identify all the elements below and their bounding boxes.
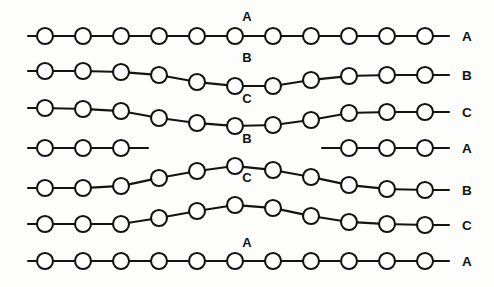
chain-node <box>379 216 395 232</box>
chain-row-3 <box>28 100 449 134</box>
chain-row-7 <box>28 253 449 269</box>
chain-node <box>417 28 433 44</box>
chain-row-6 <box>28 197 449 233</box>
chain-node <box>189 28 205 44</box>
chain-link <box>281 81 303 85</box>
chain-link <box>205 206 227 210</box>
chain-node <box>113 64 129 80</box>
chain-node <box>75 216 91 232</box>
chain-node <box>75 101 91 117</box>
chain-center-label: B <box>242 50 251 65</box>
chain-node <box>151 67 167 83</box>
chain-node <box>151 110 167 126</box>
chain-node <box>227 78 243 94</box>
chain-end-label: C <box>462 105 472 120</box>
chain-node <box>379 181 395 197</box>
chain-node <box>303 112 319 128</box>
chain-row-4 <box>28 140 449 156</box>
chain-node <box>303 253 319 269</box>
chain-link <box>357 112 379 113</box>
chain-node <box>227 118 243 134</box>
chain-node <box>265 200 281 216</box>
chain-node <box>37 180 53 196</box>
chain-diagram-canvas: AABBCCABBCCAA <box>0 0 494 287</box>
chain-node <box>341 105 357 121</box>
chain-end-label: A <box>462 141 472 156</box>
chain-link <box>357 222 379 223</box>
chain-link <box>53 108 75 109</box>
chain-node <box>379 253 395 269</box>
chain-node <box>265 162 281 178</box>
chain-link <box>205 83 227 85</box>
chain-link <box>357 186 379 188</box>
chain-node <box>189 253 205 269</box>
chain-link <box>129 73 151 75</box>
chain-node <box>75 180 91 196</box>
chain-link <box>319 114 341 118</box>
chain-link <box>395 224 417 225</box>
chain-end-label: B <box>462 68 472 83</box>
chain-link <box>357 75 379 76</box>
chain-node <box>417 67 433 83</box>
chain-node <box>151 28 167 44</box>
chain-link <box>91 109 113 110</box>
chain-node <box>265 28 281 44</box>
chain-center-label: B <box>242 131 251 146</box>
chain-node <box>75 253 91 269</box>
chain-center-label: A <box>242 9 252 24</box>
chain-node <box>75 28 91 44</box>
chain-node <box>379 104 395 120</box>
chain-node <box>37 253 53 269</box>
chain-node <box>417 217 433 233</box>
chain-node <box>151 170 167 186</box>
chains-group <box>28 28 449 269</box>
chain-node <box>341 253 357 269</box>
chain-center-label: A <box>242 235 252 250</box>
chain-center-label: C <box>242 170 252 185</box>
chain-node <box>379 28 395 44</box>
chain-node <box>379 140 395 156</box>
chain-node <box>341 214 357 230</box>
chain-node <box>341 177 357 193</box>
chain-node <box>417 253 433 269</box>
chain-node <box>113 178 129 194</box>
chain-node <box>341 68 357 84</box>
chain-link <box>243 125 265 126</box>
labels-group: AABBCCABBCCAA <box>242 9 472 269</box>
chain-link <box>319 179 341 184</box>
chain-diagram-figure: AABBCCABBCCAA <box>0 0 494 287</box>
chain-node <box>341 140 357 156</box>
chain-link <box>129 112 151 116</box>
chain-link <box>167 212 189 216</box>
chain-node <box>303 72 319 88</box>
chain-link <box>281 210 303 215</box>
chain-node <box>189 203 205 219</box>
chain-link <box>319 217 341 221</box>
chain-node <box>417 104 433 120</box>
chain-row-2 <box>28 63 449 94</box>
chain-node <box>37 100 53 116</box>
chain-link <box>319 77 341 79</box>
chain-node <box>379 67 395 83</box>
chain-node <box>113 103 129 119</box>
chain-link <box>129 219 151 223</box>
chain-end-label: A <box>462 254 472 269</box>
chain-link <box>91 71 113 72</box>
chain-link <box>395 189 417 190</box>
chain-node <box>113 28 129 44</box>
chain-node <box>227 158 243 174</box>
chain-node <box>75 63 91 79</box>
chain-node <box>37 63 53 79</box>
chain-node <box>303 208 319 224</box>
chain-node <box>189 115 205 131</box>
chain-node <box>189 163 205 179</box>
chain-link <box>167 76 189 80</box>
chain-node <box>303 28 319 44</box>
chain-link <box>281 121 303 124</box>
chain-node <box>417 182 433 198</box>
chain-link <box>205 167 227 170</box>
chain-node <box>151 210 167 226</box>
chain-link <box>243 206 265 208</box>
chain-center-label: C <box>242 91 252 106</box>
chain-node <box>151 253 167 269</box>
